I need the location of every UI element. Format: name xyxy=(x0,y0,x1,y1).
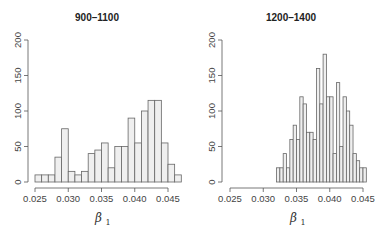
histogram-bar xyxy=(88,154,95,182)
x-axis-label: β xyxy=(94,211,102,225)
x-tick-label: 0.025 xyxy=(218,193,242,204)
histogram-bar xyxy=(346,111,349,182)
histogram-bar xyxy=(313,139,316,182)
x-axis-label-subscript: 1 xyxy=(301,218,306,227)
x-tick-label: 0.035 xyxy=(285,193,309,204)
histogram-bar xyxy=(35,175,42,182)
histogram-bar xyxy=(42,175,49,182)
y-tick-label: 50 xyxy=(12,141,23,152)
histogram-bar xyxy=(300,97,303,182)
histogram-bar xyxy=(95,150,102,182)
histogram-bar xyxy=(287,168,290,182)
y-tick-label: 200 xyxy=(12,32,23,48)
histogram-bar xyxy=(356,161,359,182)
histogram-bar xyxy=(141,111,148,182)
histogram-bar xyxy=(82,171,89,182)
y-tick-label: 0 xyxy=(206,179,217,184)
y-tick-label: 50 xyxy=(206,141,217,152)
histogram-900-1100: 900–11000501001502000.0250.0300.0350.040… xyxy=(0,0,194,231)
histogram-bar xyxy=(135,143,142,182)
histogram-bar xyxy=(75,175,82,182)
x-tick-label: 0.030 xyxy=(251,193,275,204)
y-tick-label: 100 xyxy=(206,103,217,119)
histogram-bar xyxy=(161,143,168,182)
histogram-bar xyxy=(128,118,135,182)
chart-title: 900–1100 xyxy=(75,12,119,23)
histogram-panel-1200-1400: 1200–14000501001502000.0250.0300.0350.04… xyxy=(194,0,388,231)
histogram-bar xyxy=(102,143,109,182)
histogram-bar xyxy=(360,168,363,182)
histogram-bar xyxy=(320,104,323,182)
histogram-bar xyxy=(326,97,329,182)
histogram-bar xyxy=(363,168,366,182)
histogram-bar xyxy=(310,132,313,182)
histogram-bar xyxy=(175,175,182,182)
y-tick-label: 200 xyxy=(206,32,217,48)
histogram-bars xyxy=(35,100,181,182)
histogram-bar xyxy=(48,175,55,182)
x-axis-label-subscript: 1 xyxy=(106,218,111,227)
histogram-bar xyxy=(306,132,309,182)
histogram-1200-1400: 1200–14000501001502000.0250.0300.0350.04… xyxy=(194,0,388,231)
y-axis: 050100150200 xyxy=(206,32,222,185)
histogram-bar xyxy=(155,100,162,182)
x-tick-label: 0.025 xyxy=(23,193,47,204)
histogram-bar xyxy=(168,164,175,182)
y-tick-label: 150 xyxy=(206,68,217,84)
histogram-bar xyxy=(353,154,356,182)
histogram-bar xyxy=(108,168,115,182)
y-axis: 050100150200 xyxy=(12,32,28,185)
x-axis: 0.0250.0300.0350.0400.045 xyxy=(218,188,375,204)
histogram-panel-900-1100: 900–11000501001502000.0250.0300.0350.040… xyxy=(0,0,194,231)
histogram-bar xyxy=(68,171,75,182)
x-tick-label: 0.040 xyxy=(318,193,342,204)
histogram-bar xyxy=(323,54,326,182)
histogram-bar xyxy=(350,125,353,182)
histogram-bar xyxy=(62,129,69,182)
histogram-bar xyxy=(277,168,280,182)
histogram-bar xyxy=(115,147,122,183)
histogram-bar xyxy=(330,97,333,182)
x-tick-label: 0.030 xyxy=(56,193,80,204)
histogram-bar xyxy=(293,125,296,182)
y-tick-label: 0 xyxy=(12,179,23,184)
x-tick-label: 0.045 xyxy=(156,193,180,204)
x-tick-label: 0.035 xyxy=(90,193,114,204)
histogram-bar xyxy=(148,100,155,182)
chart-title: 1200–1400 xyxy=(266,12,316,23)
x-tick-label: 0.040 xyxy=(123,193,147,204)
histogram-bar xyxy=(336,83,339,182)
histogram-bar xyxy=(55,157,62,182)
histogram-bar xyxy=(297,139,300,182)
histogram-bar xyxy=(343,97,346,182)
x-tick-label: 0.045 xyxy=(351,193,375,204)
y-tick-label: 100 xyxy=(12,103,23,119)
histogram-bar xyxy=(316,68,319,182)
histogram-bar xyxy=(280,168,283,182)
histogram-bar xyxy=(121,147,128,183)
histogram-bar xyxy=(340,147,343,183)
histogram-bars xyxy=(277,54,367,182)
histogram-bar xyxy=(303,104,306,182)
histogram-bar xyxy=(283,154,286,182)
y-tick-label: 150 xyxy=(12,68,23,84)
x-axis: 0.0250.0300.0350.0400.045 xyxy=(23,188,180,204)
histogram-bar xyxy=(333,154,336,182)
histogram-bar xyxy=(290,139,293,182)
x-axis-label: β xyxy=(289,211,297,225)
